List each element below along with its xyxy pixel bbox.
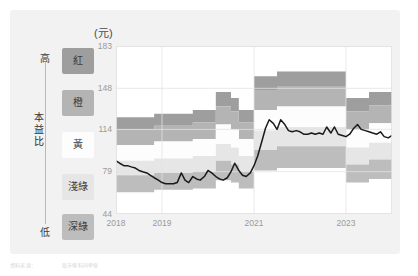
legend-title-char-3: 比 [32, 136, 45, 148]
chart-area: (元) 4479114148183 2018201920212023 [94, 24, 392, 240]
legend-high-label: 高 [32, 50, 58, 65]
legend-swatch-orange[interactable]: 橙 [62, 90, 94, 116]
legend-swatch-light-green[interactable]: 淺綠 [62, 174, 94, 200]
legend-low-label: 低 [32, 224, 58, 239]
y-tick-183: 183 [90, 42, 112, 51]
legend-swatch-red[interactable]: 紅 [62, 48, 94, 74]
plot-canvas [116, 46, 392, 214]
chart-footer: 資料來源： 股市爆料同學會 [0, 258, 418, 276]
legend-swatch-yellow[interactable]: 黃 [62, 132, 94, 158]
legend-title-char-1: 本 [32, 112, 45, 124]
y-tick-114: 114 [90, 125, 112, 134]
x-tick-2018: 2018 [96, 218, 136, 228]
screenshot-root: 高 本 益 比 低 紅 橙 黃 淺綠 深綠 (元) 4479114148183 [0, 0, 418, 276]
pe-band-legend: 高 本 益 比 低 紅 橙 黃 淺綠 深綠 [22, 46, 94, 242]
y-axis-unit-label: (元) [94, 24, 113, 40]
y-tick-148: 148 [90, 84, 112, 93]
footer-source-name: 股市爆料同學會 [62, 261, 98, 268]
x-tick-2023: 2023 [326, 218, 366, 228]
legend-title-pe-ratio: 本 益 比 [32, 112, 45, 148]
legend-title-char-2: 益 [32, 124, 45, 136]
y-tick-79: 79 [90, 167, 112, 176]
pe-river-plot-svg [116, 46, 392, 214]
pe-river-chart-card: 高 本 益 比 低 紅 橙 黃 淺綠 深綠 (元) 4479114148183 [10, 10, 400, 254]
footer-source-label: 資料來源： [10, 261, 36, 268]
legend-axis-line [45, 62, 46, 224]
x-tick-2019: 2019 [142, 218, 182, 228]
x-tick-2021: 2021 [234, 218, 274, 228]
